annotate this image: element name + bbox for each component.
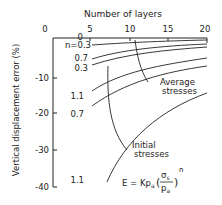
x-tick-label: 20 (200, 24, 211, 34)
curve-label: 0.7 (70, 109, 84, 119)
y-tick-label: -10 (35, 73, 49, 83)
x-tick-label: 5 (87, 24, 92, 34)
equation-rparen: ) (174, 176, 178, 189)
y-tick-label: -30 (35, 145, 49, 155)
y-tick-label: -40 (35, 182, 49, 192)
curves (92, 40, 207, 182)
equation-exponent: n (179, 166, 183, 174)
curve-labels: n=0.3 0.7 0.3 1.1 0.7 1.1 (65, 40, 91, 185)
curve-init-n11 (107, 93, 207, 182)
equation-lhs: E = Kpa (122, 178, 155, 189)
equation: E = Kpa ( σs pa ) n (122, 166, 183, 194)
x-tick-labels: 0 5 10 15 20 (42, 24, 210, 34)
avg-stresses-connector (135, 40, 148, 82)
init-stresses-connector (108, 66, 127, 150)
equation-denominator: pa (161, 183, 170, 194)
curve-label: 1.1 (70, 175, 84, 185)
x-tick-label: 0 (42, 24, 47, 34)
curve-label: 1.1 (70, 91, 84, 101)
annotations: Averagestresses Initialstresses (132, 77, 197, 159)
y-tick-label: -20 (35, 108, 49, 118)
x-tick-label: 10 (125, 24, 136, 34)
curve-avg-n07 (92, 44, 207, 59)
curve-label: 0.7 (74, 53, 88, 63)
curve-label: n=0.3 (65, 40, 91, 50)
curve-label: 0.3 (74, 63, 88, 73)
equation-numerator: σs (161, 170, 170, 181)
x-axis-title: Number of layers (84, 9, 162, 19)
annotation-initial: Initialstresses (132, 140, 169, 159)
y-axis-title: Vertical displacement error (%) (11, 44, 21, 177)
x-tick-label: 15 (163, 24, 174, 34)
equation-lparen: ( (156, 176, 160, 189)
curve-avg-n03 (92, 40, 207, 45)
curve-init-n03 (92, 47, 207, 65)
annotation-average: Averagestresses (160, 77, 197, 96)
chart: Number of layers 0 5 10 15 20 Vertical d… (0, 0, 222, 205)
